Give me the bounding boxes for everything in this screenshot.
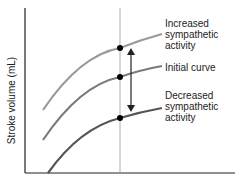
curve-initial bbox=[43, 66, 162, 140]
label-increased: Increasedsympatheticactivity bbox=[165, 18, 218, 51]
y-axis-label: Stroke volume (mL) bbox=[6, 56, 17, 146]
point-decreased bbox=[117, 115, 123, 121]
label-initial: Initial curve bbox=[165, 62, 216, 73]
point-initial bbox=[117, 74, 123, 80]
curve-decreased bbox=[48, 108, 162, 173]
point-increased bbox=[117, 45, 123, 51]
label-decreased: Decreasedsympatheticactivity bbox=[165, 90, 218, 123]
curve-increased bbox=[43, 34, 162, 110]
